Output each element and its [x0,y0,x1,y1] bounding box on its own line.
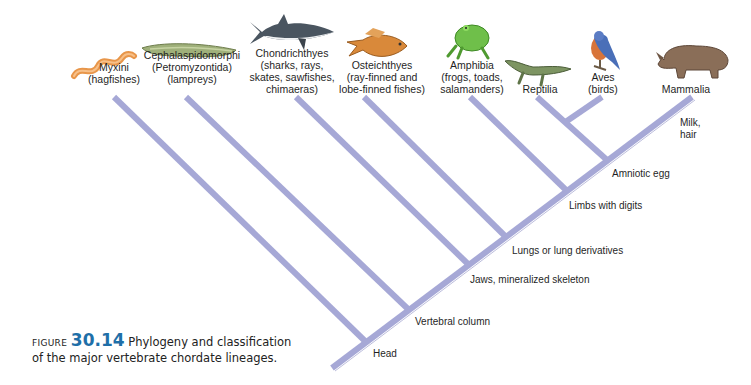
bird-illustration [586,30,622,76]
branch-myxini [114,97,366,342]
taxon-chondrichthyes: Chondrichthyes (sharks, rays, skates, sa… [249,47,334,95]
figure-word: Figure [32,338,67,348]
shark-illustration [248,12,338,52]
taxon-myxini: Myxini (hagfishes) [88,61,140,85]
branch-chondrichthyes [296,97,468,264]
taxon-aves: Aves (birds) [588,71,618,95]
branch-osteichthyes [364,97,505,236]
trait-jaws-mineralized-skeleton: Jaws, mineralized skeleton [470,274,590,286]
trait-vertebral-column: Vertebral column [415,316,490,328]
branch-aves [564,97,602,123]
figure-number: 30.14 [71,330,125,350]
taxon-reptilia: Reptilia [522,83,557,95]
taxon-amphibia: Amphibia (frogs, toads, salamanders) [440,59,504,95]
taxon-osteichthyes: Osteichthyes (ray-finned and lobe-finned… [339,59,425,95]
branch-reptilia [537,97,607,160]
frog-illustration [446,18,494,60]
trait-limbs-with-digits: Limbs with digits [569,200,642,212]
figure-caption: Figure 30.14 Phylogeny and classificatio… [32,333,291,366]
trait-head: Head [373,348,397,360]
trait-milk-hair: Milk, hair [680,117,701,141]
taxon-mammalia: Mammalia [662,83,710,95]
rhinoceros-illustration [656,40,732,80]
phylogeny-figure: Myxini (hagfishes) Cephalaspidomorphi (P… [0,0,751,385]
trait-amniotic-egg: Amniotic egg [612,168,670,180]
bony-fish-illustration [345,26,411,62]
taxon-cephalaspidomorphi: Cephalaspidomorphi (Petromyzontida) (lam… [144,49,240,85]
caption-line1: Phylogeny and classification [128,335,291,349]
caption-line2: of the major vertebrate chordate lineage… [32,351,291,366]
trait-lungs: Lungs or lung derivatives [512,245,623,257]
